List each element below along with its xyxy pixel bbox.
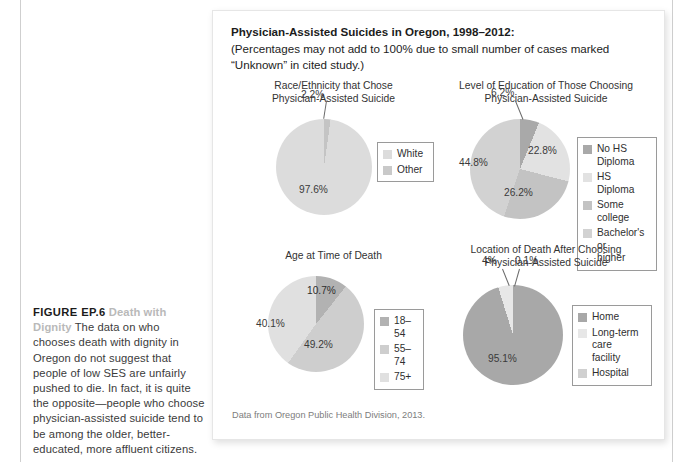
chart-title-line-1: Level of Education of Those Choosing <box>435 79 657 92</box>
chart-age-at-death: Age at Time of Death 10.7% 49.2% 40.1% 1… <box>231 249 436 404</box>
legend-swatch-75-plus <box>380 373 389 382</box>
chart-title-line-1: Location of Death After Choosing <box>435 243 657 256</box>
legend-swatch-home <box>578 313 587 322</box>
chart-title-location-of-death: Location of Death After Choosing Physici… <box>435 243 657 269</box>
legend-item-some-college[interactable]: Some college <box>583 199 649 224</box>
legend-label-18-54: 18–54 <box>394 315 416 340</box>
legend-item-long-term-care-facility[interactable]: Long-term care facility <box>578 327 644 365</box>
pie-label-55-74-49-2: 49.2% <box>304 339 333 350</box>
pie-label-75-plus-40-1: 40.1% <box>256 318 285 329</box>
legend-item-other[interactable]: Other <box>383 164 426 177</box>
legend-swatch-18-54 <box>380 317 389 326</box>
chart-race-ethnicity: Race/Ethnicity that Chose Physician-Assi… <box>231 79 436 229</box>
figure-caption: FIGURE EP.6 Death with Dignity The data … <box>33 305 205 457</box>
pie-education <box>470 119 570 219</box>
panel-heading-title: Physician-Assisted Suicides in Oregon, 1… <box>231 24 651 41</box>
legend-item-home[interactable]: Home <box>578 311 644 324</box>
chart-title-line-1: Race/Ethnicity that Chose <box>231 79 436 92</box>
chart-title-age-at-death: Age at Time of Death <box>231 249 436 262</box>
pie-label-bachelors-44-8: 44.8% <box>459 157 488 168</box>
legend-item-no-hs-diploma[interactable]: No HS Diploma <box>583 143 649 168</box>
panel-heading-note: (Percentages may not add to 100% due to … <box>231 41 651 74</box>
legend-label-hospital: Hospital <box>592 367 629 380</box>
chart-title-education: Level of Education of Those Choosing Phy… <box>435 79 657 105</box>
legend-label-75-plus: 75+ <box>394 371 411 384</box>
chart-education: Level of Education of Those Choosing Phy… <box>435 79 657 239</box>
chart-location-of-death: Location of Death After Choosing Physici… <box>435 243 657 403</box>
chart-title-line-2: Physician-Assisted Suicide <box>435 92 657 105</box>
pie-label-home-95-1: 95.1% <box>488 353 517 364</box>
chart-title-line-2: Physician-Assisted Suicide <box>231 92 436 105</box>
legend-label-home: Home <box>592 311 619 324</box>
pie-label-hospital-0-1: 0.1% <box>515 255 538 266</box>
legend-swatch-bachelors-or-higher <box>583 229 592 238</box>
legend-item-18-54[interactable]: 18–54 <box>380 315 416 340</box>
legend-swatch-white <box>383 150 392 159</box>
legend-item-hs-diploma[interactable]: HS Diploma <box>583 171 649 196</box>
legend-label-55-74: 55–74 <box>394 343 416 368</box>
figure-number: FIGURE EP.6 <box>33 306 106 318</box>
legend-label-hs-diploma: HS Diploma <box>597 171 649 196</box>
pie-label-hs-diploma-22-8: 22.8% <box>528 145 557 156</box>
chart-title-line-2: Physician-Assisted Suicide <box>435 256 657 269</box>
legend-swatch-some-college <box>583 201 592 210</box>
legend-swatch-hospital <box>578 369 587 378</box>
pie-label-other-2-2: 2.2% <box>301 89 324 100</box>
legend-swatch-hs-diploma <box>583 173 592 182</box>
legend-age-at-death: 18–54 55–74 75+ <box>374 309 424 390</box>
leader-line-hospital <box>514 269 520 287</box>
legend-label-no-hs-diploma: No HS Diploma <box>597 143 649 168</box>
chart-source-note: Data from Oregon Public Health Division,… <box>232 410 425 420</box>
panel-heading: Physician-Assisted Suicides in Oregon, 1… <box>231 24 651 74</box>
chart-title-race-ethnicity: Race/Ethnicity that Chose Physician-Assi… <box>231 79 436 105</box>
pie-label-white-97-6: 97.6% <box>299 184 328 195</box>
leader-line-long-term-care <box>502 269 510 286</box>
legend-item-hospital[interactable]: Hospital <box>578 367 644 380</box>
pie-label-18-54-10-7: 10.7% <box>307 285 336 296</box>
pie-race-ethnicity <box>276 119 372 215</box>
pie-label-some-college-26-2: 26.2% <box>504 187 533 198</box>
legend-item-white[interactable]: White <box>383 148 426 161</box>
pie-location-of-death <box>463 285 563 385</box>
legend-item-75-plus[interactable]: 75+ <box>380 371 416 384</box>
pie-label-long-term-care-4: 4% <box>482 255 497 266</box>
legend-swatch-55-74 <box>380 345 389 354</box>
legend-location-of-death: Home Long-term care facility Hospital <box>572 305 652 386</box>
legend-swatch-other <box>383 166 392 175</box>
pie-label-no-hs-diploma-6-2: 6.2% <box>491 87 514 98</box>
legend-label-long-term-care-facility: Long-term care facility <box>592 327 644 365</box>
figure-caption-body: The data on who chooses death with digni… <box>33 321 205 455</box>
legend-label-white: White <box>397 148 423 161</box>
legend-label-some-college: Some college <box>597 199 649 224</box>
legend-swatch-no-hs-diploma <box>583 145 592 154</box>
page-column-rule-right <box>672 0 673 462</box>
legend-swatch-long-term-care-facility <box>578 329 587 338</box>
legend-label-other: Other <box>397 164 422 177</box>
chart-title-line-1: Age at Time of Death <box>231 249 436 262</box>
page-column-rule-left <box>20 0 21 462</box>
legend-race-ethnicity: White Other <box>377 142 434 182</box>
legend-item-55-74[interactable]: 55–74 <box>380 343 416 368</box>
figure-panel: Physician-Assisted Suicides in Oregon, 1… <box>212 10 665 440</box>
